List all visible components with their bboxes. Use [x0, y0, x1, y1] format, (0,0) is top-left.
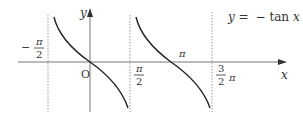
tick-half-pi-num: π [135, 63, 143, 74]
tick-three-half-pi-den: 2 [218, 76, 224, 87]
tick-neg-half-pi-den: 2 [36, 49, 42, 60]
tick-three-half-pi-suffix: π [228, 72, 236, 83]
origin-label: O [81, 68, 90, 81]
y-axis-arrow-icon [87, 8, 93, 17]
graph-figure: y = − tan x y x O − π 2 π 2 π 3 2 π [0, 0, 303, 120]
tick-neg-half-pi-num: π [35, 36, 43, 47]
x-axis-arrow-icon [278, 59, 287, 65]
tick-pi: π [178, 48, 186, 59]
tick-neg-half-pi-sign: − [21, 41, 30, 54]
function-title: y = − tan x [227, 10, 300, 24]
y-axis-label: y [79, 6, 87, 20]
tick-three-half-pi-num: 3 [218, 63, 224, 74]
tick-half-pi-den: 2 [136, 76, 142, 87]
x-axis-label: x [281, 68, 288, 82]
